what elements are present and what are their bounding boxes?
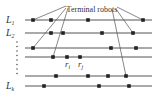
robot-marker [49, 18, 53, 22]
robot-marker [61, 31, 65, 35]
robot-marker [127, 84, 131, 88]
ellipsis-dot [16, 68, 17, 69]
ellipsis-dot [16, 55, 17, 56]
line-label-5: Lk [5, 80, 15, 92]
robot-label-i: ri [65, 59, 71, 70]
ellipsis-dot [16, 59, 17, 60]
ellipsis-dot [16, 64, 17, 65]
robot-marker [109, 46, 113, 50]
ellipsis-dot [16, 41, 17, 42]
robot-marker [49, 31, 53, 35]
line-label-1: L2 [5, 27, 15, 39]
robot-marker [42, 84, 46, 88]
pointer-line-5 [112, 9, 126, 76]
robot-marker [86, 74, 90, 78]
robot-label-j: rj [78, 59, 84, 70]
robot-marker [141, 18, 145, 22]
robot-marker [54, 74, 58, 78]
ellipsis-dot [16, 46, 17, 47]
robot-marker [31, 46, 35, 50]
robot-marker [131, 31, 135, 35]
pointer-line-1 [33, 8, 66, 48]
pointer-line-4 [116, 9, 133, 33]
pointer-line-3 [117, 7, 143, 20]
robot-marker [51, 55, 55, 59]
robot-marker [31, 18, 35, 22]
ellipsis-dot [16, 73, 17, 74]
robot-marker [134, 46, 138, 50]
pointer-line-0 [33, 6, 66, 20]
robot-marker [106, 74, 110, 78]
callout-label: Terminal robots [67, 5, 118, 14]
robot-marker [97, 84, 101, 88]
terminal-robots-diagram: L1L2LkTerminal robotsrirj [0, 0, 165, 100]
line-label-0: L1 [5, 14, 15, 26]
robot-marker [100, 31, 104, 35]
robot-marker [124, 74, 128, 78]
robot-marker [86, 18, 90, 22]
ellipsis-dot [16, 50, 17, 51]
